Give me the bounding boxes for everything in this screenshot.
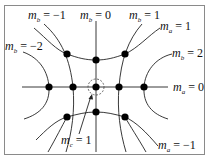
pointer-arrowhead-icon	[89, 94, 94, 100]
node	[92, 56, 99, 63]
label-mb-1: mb = 1	[129, 8, 160, 24]
nodes	[45, 50, 147, 120]
curve-lower-right-branch	[125, 117, 146, 152]
label-mb-2: mb = 2	[172, 46, 203, 62]
node	[121, 50, 128, 57]
svg-text:mc = 1: mc = 1	[61, 133, 92, 149]
svg-text:mb = 2: mb = 2	[172, 46, 203, 62]
node	[63, 113, 70, 120]
label-mb-neg2: mb = −2	[5, 39, 43, 55]
node	[45, 83, 52, 90]
label-ma-1: ma = 1	[160, 19, 191, 35]
curve-mb-2	[144, 54, 172, 119]
node	[63, 50, 70, 57]
pointer-arrow-line	[79, 96, 91, 134]
svg-text:ma = 0: ma = 0	[173, 80, 204, 96]
quantum-number-diagram: mb = −1 mb = 0 mb = 1 ma = 1 mb = −2 mb …	[0, 0, 207, 160]
svg-text:mb = 0: mb = 0	[80, 8, 111, 24]
node	[140, 83, 147, 90]
label-ma-0: ma = 0	[173, 80, 204, 96]
label-mb-0: mb = 0	[80, 8, 111, 24]
curve-mb-neg2	[23, 52, 49, 119]
svg-text:mb = 1: mb = 1	[129, 8, 160, 24]
node	[92, 108, 99, 115]
node	[115, 83, 122, 90]
svg-text:ma = 1: ma = 1	[160, 19, 191, 35]
node	[92, 83, 99, 90]
label-ma-neg1: ma = −1	[158, 138, 196, 154]
label-mc-1: mc = 1	[61, 133, 92, 149]
svg-text:mb = −1: mb = −1	[28, 8, 66, 24]
svg-text:mb = −2: mb = −2	[5, 39, 43, 55]
node	[69, 83, 76, 90]
svg-text:ma = −1: ma = −1	[158, 138, 196, 154]
node	[121, 113, 128, 120]
label-mb-neg1: mb = −1	[28, 8, 66, 24]
